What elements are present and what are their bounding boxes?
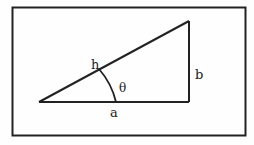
diagram-svg — [0, 0, 254, 145]
label-adjacent: a — [110, 106, 118, 119]
label-opposite: b — [195, 68, 203, 81]
label-angle-theta: θ — [119, 82, 126, 94]
right-triangle-diagram: h θ b a — [0, 0, 254, 145]
angle-theta-arc — [99, 69, 116, 102]
label-hypotenuse: h — [91, 58, 99, 71]
frame-border — [13, 8, 246, 136]
side-h-hypotenuse — [39, 21, 189, 102]
